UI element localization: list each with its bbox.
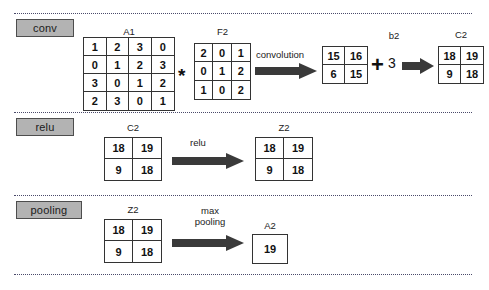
matrix-z2-relu: 1819918	[255, 137, 313, 181]
section-divider-bottom	[14, 274, 472, 275]
section-divider-conv-relu	[14, 112, 472, 113]
matrix-cell: 18	[284, 159, 312, 180]
bias-label-b2: b2	[384, 30, 404, 41]
matrix-cell: 2	[84, 92, 107, 110]
matrix-cell: 1	[107, 56, 130, 74]
arrow-label-max-pooling: max pooling	[180, 206, 240, 228]
matrix-cell: 2	[129, 56, 152, 74]
matrix-cell: 2	[232, 62, 250, 80]
matrix-cell: 3	[129, 38, 152, 56]
bias-value: 3	[388, 55, 396, 71]
matrix-cell: 2	[232, 81, 250, 99]
matrix-cell: 2	[195, 44, 213, 62]
matrix-label-a2: A2	[252, 220, 288, 231]
matrix-cell: 2	[152, 74, 175, 92]
matrix-cell: 19	[133, 138, 161, 159]
matrix-z2-pooling: 1819918	[104, 219, 162, 263]
matrix-cell: 18	[461, 65, 483, 83]
section-tag-pooling-label: pooling	[31, 205, 68, 216]
matrix-label-c2-conv: C2	[438, 29, 484, 40]
section-divider-top	[14, 13, 472, 14]
matrix-cell: 19	[284, 138, 312, 159]
matrix-cell: 1	[129, 74, 152, 92]
matrix-cell: 3	[84, 74, 107, 92]
matrix-cell: 1	[232, 44, 250, 62]
matrix-cell: 0	[129, 92, 152, 110]
arrow-label-convolution: convolution	[256, 49, 304, 60]
matrix-cell: 18	[105, 138, 133, 159]
matrix-c2-conv: 1819918	[438, 46, 484, 84]
relu-arrow	[172, 153, 244, 169]
matrix-cell: 0	[213, 44, 231, 62]
matrix-cell: 9	[105, 159, 133, 180]
matrix-cell: 16	[345, 47, 367, 65]
matrix-cell: 9	[439, 65, 461, 83]
matrix-cell: 18	[133, 241, 161, 262]
plus-operator-symbol: +	[371, 52, 384, 78]
section-tag-relu-label: relu	[35, 122, 54, 133]
matrix-cell: 19	[461, 47, 483, 65]
matrix-cell: 18	[133, 159, 161, 180]
matrix-a2: 19	[252, 234, 288, 264]
matrix-cell: 15	[345, 65, 367, 83]
section-divider-relu-pooling	[14, 195, 472, 196]
matrix-conv-result: 1516615	[322, 46, 368, 84]
bias-add-arrow	[402, 58, 434, 74]
section-tag-conv-label: conv	[33, 23, 57, 34]
arrow-label-relu: relu	[190, 137, 206, 148]
matrix-cell: 18	[439, 47, 461, 65]
max-pooling-arrow	[172, 235, 244, 251]
matrix-cell: 6	[323, 65, 345, 83]
convolution-operator-symbol: *	[178, 65, 185, 87]
matrix-cell: 0	[107, 74, 130, 92]
matrix-cell: 0	[84, 56, 107, 74]
matrix-cell: 19	[133, 220, 161, 241]
matrix-cell: 1	[152, 92, 175, 110]
arrow-label-pooling: pooling	[195, 216, 226, 227]
matrix-cell: 9	[105, 241, 133, 262]
matrix-cell: 15	[323, 47, 345, 65]
matrix-label-a1: A1	[83, 26, 175, 37]
matrix-cell: 3	[152, 56, 175, 74]
section-tag-pooling: pooling	[16, 201, 82, 219]
matrix-cell: 1	[195, 81, 213, 99]
matrix-cell: 1	[84, 38, 107, 56]
matrix-cell: 0	[195, 62, 213, 80]
matrix-c2-relu: 1819918	[104, 137, 162, 181]
section-tag-relu: relu	[16, 118, 74, 136]
matrix-f2: 201012102	[194, 43, 251, 100]
diagram-canvas: conv A1 1230012330122301 * F2 201012102 …	[0, 0, 489, 290]
matrix-cell: 1	[213, 62, 231, 80]
matrix-cell: 3	[107, 92, 130, 110]
matrix-a1: 1230012330122301	[83, 37, 175, 111]
section-tag-conv: conv	[16, 19, 74, 37]
matrix-cell: 18	[105, 220, 133, 241]
matrix-label-c2-relu: C2	[104, 122, 162, 133]
matrix-cell: 2	[107, 38, 130, 56]
matrix-label-z2-pooling: Z2	[104, 204, 162, 215]
matrix-cell: 0	[152, 38, 175, 56]
matrix-cell: 9	[256, 159, 284, 180]
matrix-cell: 18	[256, 138, 284, 159]
convolution-arrow	[255, 63, 317, 79]
matrix-cell: 19	[253, 235, 287, 263]
matrix-label-z2-relu: Z2	[255, 122, 313, 133]
arrow-label-max: max	[201, 205, 219, 216]
matrix-cell: 0	[213, 81, 231, 99]
matrix-label-f2: F2	[194, 26, 251, 37]
